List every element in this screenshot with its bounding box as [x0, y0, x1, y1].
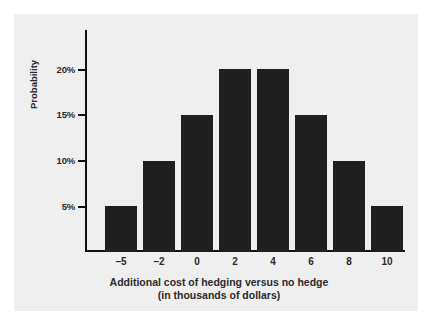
bar-0 [181, 115, 213, 252]
x-axis-caption: Additional cost of hedging versus no hed… [54, 276, 384, 302]
bar-8 [333, 161, 365, 252]
bar-2 [219, 69, 251, 252]
y-tick-mark-15 [78, 114, 87, 116]
y-tick-label-15: 15% [57, 109, 75, 120]
y-axis-line [85, 30, 87, 252]
y-tick-label-5: 5% [62, 201, 75, 212]
y-tick-label-10: 10% [57, 155, 75, 166]
x-tick-label-minus5: –5 [101, 256, 141, 267]
x-tick-label-0: 0 [177, 256, 217, 267]
y-tick-mark-5 [78, 206, 87, 208]
x-tick-label-minus2: –2 [139, 256, 179, 267]
x-axis-caption-line2: (in thousands of dollars) [54, 289, 384, 302]
bar-10 [371, 206, 403, 252]
y-tick-mark-10 [78, 160, 87, 162]
bar-minus5 [105, 206, 137, 252]
x-tick-label-4: 4 [253, 256, 293, 267]
y-axis-title: Probability [28, 60, 39, 109]
bar-6 [295, 115, 327, 252]
x-tick-label-2: 2 [215, 256, 255, 267]
x-tick-label-8: 8 [329, 256, 369, 267]
y-tick-mark-20 [78, 69, 87, 71]
y-tick-label-20: 20% [57, 64, 75, 75]
x-axis-caption-line1: Additional cost of hedging versus no hed… [54, 276, 384, 289]
bar-4 [257, 69, 289, 252]
figure-panel: 20% 15% 10% 5% –5 –2 0 2 4 6 8 10 Probab… [14, 14, 418, 311]
x-tick-label-10: 10 [367, 256, 407, 267]
x-tick-label-6: 6 [291, 256, 331, 267]
plot-area: 20% 15% 10% 5% –5 –2 0 2 4 6 8 10 Probab… [14, 14, 418, 311]
bar-minus2 [143, 161, 175, 252]
